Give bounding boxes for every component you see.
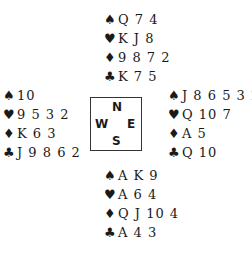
east-diamonds: ♦A 5 — [168, 124, 252, 143]
north-diamonds: ♦9 8 7 2 — [104, 48, 170, 67]
south-diamonds: ♦Q J 10 4 — [104, 204, 179, 223]
west-spades: ♠10 — [3, 86, 81, 105]
diamond-icon: ♦ — [104, 204, 118, 223]
heart-icon: ♥ — [104, 185, 118, 204]
club-icon: ♣ — [104, 67, 118, 86]
east-clubs: ♣Q 10 — [168, 143, 252, 162]
north-hand: ♠Q 7 4 ♥K J 8 ♦9 8 7 2 ♣K 7 5 — [104, 10, 170, 86]
heart-icon: ♥ — [104, 29, 118, 48]
east-spades: ♠J 8 6 5 3 2 — [168, 86, 252, 105]
north-hearts: ♥K J 8 — [104, 29, 170, 48]
south-clubs: ♣A 4 3 — [104, 223, 179, 242]
west-clubs: ♣J 9 8 6 2 — [3, 143, 81, 162]
north-spades: ♠Q 7 4 — [104, 10, 170, 29]
heart-icon: ♥ — [3, 105, 17, 124]
spade-icon: ♠ — [3, 86, 17, 105]
compass-box: N W E S — [90, 97, 142, 151]
north-clubs: ♣K 7 5 — [104, 67, 170, 86]
east-hand: ♠J 8 6 5 3 2 ♥Q 10 7 ♦A 5 ♣Q 10 — [168, 86, 252, 162]
south-hearts: ♥A 6 4 — [104, 185, 179, 204]
diamond-icon: ♦ — [3, 124, 17, 143]
club-icon: ♣ — [168, 143, 182, 162]
spade-icon: ♠ — [104, 166, 118, 185]
west-hearts: ♥9 5 3 2 — [3, 105, 81, 124]
compass-east: E — [127, 117, 135, 131]
spade-icon: ♠ — [168, 86, 182, 105]
west-hand: ♠10 ♥9 5 3 2 ♦K 6 3 ♣J 9 8 6 2 — [3, 86, 81, 162]
club-icon: ♣ — [3, 143, 17, 162]
compass-west: W — [95, 117, 108, 131]
diamond-icon: ♦ — [104, 48, 118, 67]
compass-north: N — [112, 100, 122, 114]
heart-icon: ♥ — [168, 105, 182, 124]
east-hearts: ♥Q 10 7 — [168, 105, 252, 124]
south-hand: ♠A K 9 ♥A 6 4 ♦Q J 10 4 ♣A 4 3 — [104, 166, 179, 242]
south-spades: ♠A K 9 — [104, 166, 179, 185]
diamond-icon: ♦ — [168, 124, 182, 143]
club-icon: ♣ — [104, 223, 118, 242]
west-diamonds: ♦K 6 3 — [3, 124, 81, 143]
compass-south: S — [112, 134, 121, 148]
spade-icon: ♠ — [104, 10, 118, 29]
